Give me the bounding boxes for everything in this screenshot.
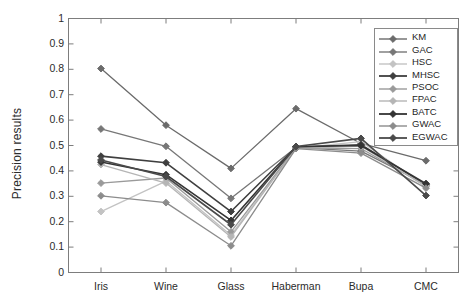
legend-label: HSC — [412, 57, 432, 67]
legend-label: GAC — [412, 45, 433, 55]
legend-item-gwac[interactable]: GWAC — [378, 118, 453, 130]
legend-item-hsc[interactable]: HSC — [378, 56, 453, 68]
data-point-marker — [98, 208, 105, 215]
y-tick-label: 0.3 — [26, 189, 64, 201]
legend-label: EGWAC — [412, 132, 448, 142]
legend-label: FPAC — [412, 94, 437, 104]
legend-item-mhsc[interactable]: MHSC — [378, 68, 453, 80]
data-point-marker — [98, 192, 105, 199]
y-tick-label: 0.6 — [26, 113, 64, 125]
legend-label: BATC — [412, 107, 437, 117]
y-tick-label: 0.4 — [26, 164, 64, 176]
data-point-marker — [163, 199, 170, 206]
data-point-marker — [423, 157, 430, 164]
legend-label: KM — [412, 32, 426, 42]
y-tick-label: 0.8 — [26, 62, 64, 74]
legend-swatch-icon — [378, 93, 408, 105]
y-tick-label: 1 — [26, 12, 64, 24]
legend-item-km[interactable]: KM — [378, 31, 453, 43]
chart-legend: KMGACHSCMHSCPSOCFPACBATCGWACEGWAC — [374, 28, 458, 146]
legend-swatch-icon — [378, 56, 408, 68]
legend-item-fpac[interactable]: FPAC — [378, 93, 453, 105]
series-hsc — [98, 138, 430, 238]
legend-swatch-icon — [378, 44, 408, 56]
data-point-marker — [98, 126, 105, 133]
legend-item-batc[interactable]: BATC — [378, 105, 453, 117]
y-tick-label: 0.1 — [26, 240, 64, 252]
y-tick-label: 0 — [26, 266, 64, 278]
legend-item-egwac[interactable]: EGWAC — [378, 130, 453, 142]
series-line — [101, 138, 426, 224]
y-tick-label: 0.2 — [26, 215, 64, 227]
legend-label: MHSC — [412, 70, 440, 80]
data-point-marker — [98, 180, 105, 187]
legend-swatch-icon — [378, 118, 408, 130]
legend-swatch-icon — [378, 81, 408, 93]
legend-swatch-icon — [378, 68, 408, 80]
y-tick-label: 0.9 — [26, 37, 64, 49]
y-tick-label: 0.5 — [26, 139, 64, 151]
y-tick-label: 0.7 — [26, 88, 64, 100]
legend-item-psoc[interactable]: PSOC — [378, 81, 453, 93]
legend-swatch-icon — [378, 31, 408, 43]
legend-label: GWAC — [412, 119, 441, 129]
series-line — [101, 149, 426, 246]
chart-figure: Precision results 00.10.20.30.40.50.60.7… — [0, 0, 473, 307]
legend-label: PSOC — [412, 82, 439, 92]
legend-item-gac[interactable]: GAC — [378, 43, 453, 55]
legend-swatch-icon — [378, 106, 408, 118]
legend-swatch-icon — [378, 130, 408, 142]
x-tick-label: CMC — [381, 280, 471, 292]
data-point-marker — [228, 242, 235, 249]
